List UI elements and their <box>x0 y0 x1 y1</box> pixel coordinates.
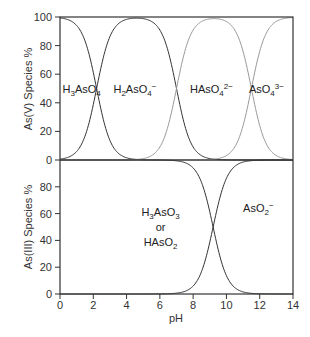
y-tick-label: 0 <box>46 288 52 300</box>
lower-panel-as-iii: H3AsO3orHAsO2AsO2− <box>60 160 293 294</box>
x-tick-label: 14 <box>287 299 299 311</box>
x-tick-label: 10 <box>220 299 232 311</box>
label-aso4: AsO43− <box>249 82 284 98</box>
x-tick-label: 12 <box>254 299 266 311</box>
x-tick-label: 0 <box>57 299 63 311</box>
label-or: or <box>156 221 166 233</box>
y-tick-label: 80 <box>40 40 52 52</box>
y-axis-label-as-iii: As(III) Species % <box>22 185 34 270</box>
label-h3aso3: H3AsO3 <box>141 206 180 221</box>
curve-h3aso3orhaso2 <box>60 160 293 294</box>
x-axis-label-ph: pH <box>169 312 183 324</box>
y-tick-label: 100 <box>34 11 52 23</box>
curve-aso2 <box>60 160 293 294</box>
y-tick-label: 60 <box>40 208 52 220</box>
y-tick-label: 60 <box>40 68 52 80</box>
y-tick-label: 40 <box>40 234 52 246</box>
y-tick-label: 80 <box>40 181 52 193</box>
speciation-chart: H3AsO4H2AsO4−HAsO42−AsO43− H3AsO3orHAsO2… <box>0 0 310 337</box>
label-h3aso4: H3AsO4 <box>63 83 102 98</box>
y-tick-label: 20 <box>40 261 52 273</box>
label-haso2: HAsO2 <box>144 236 178 251</box>
x-tick-label: 8 <box>190 299 196 311</box>
label-h2aso4: H2AsO4− <box>113 82 156 98</box>
upper-panel-as-v: H3AsO4H2AsO4−HAsO42−AsO43− <box>60 17 293 160</box>
y-tick-label: 40 <box>40 97 52 109</box>
label-aso2: AsO2− <box>243 201 274 217</box>
label-haso4: HAsO42− <box>190 82 233 98</box>
y-axis-label-as-v: As(V) Species % <box>22 48 34 131</box>
x-tick-label: 6 <box>157 299 163 311</box>
x-tick-label: 4 <box>124 299 130 311</box>
axes: 02040608010002040608002468101214 <box>34 11 299 311</box>
x-tick-label: 2 <box>90 299 96 311</box>
y-tick-label: 20 <box>40 125 52 137</box>
y-tick-label: 0 <box>46 154 52 166</box>
